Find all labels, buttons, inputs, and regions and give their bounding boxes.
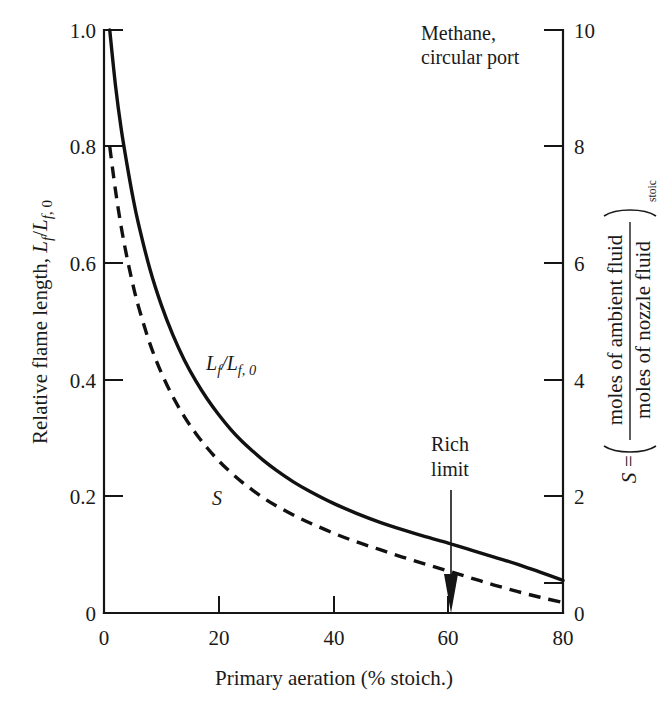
left-tick-label-2: 0.4 [70, 369, 97, 393]
series-line-stoichiometric-ratio [110, 147, 563, 603]
right-axis-title-symbol: S [617, 472, 641, 483]
right-axis-tick-labels: 10 8 6 4 2 0 [574, 19, 595, 626]
right-axis-ticks [544, 30, 563, 583]
methane-note: Methane, circular port [421, 22, 520, 69]
right-axis-title-paren-close [604, 210, 656, 216]
rich-limit-arrow-head [444, 574, 458, 613]
bottom-axis-title: Primary aeration (% stoich.) [215, 666, 453, 690]
left-axis-title: Relative flame length, Lf/Lf, 0 [28, 200, 55, 444]
left-tick-label-3: 0.6 [70, 252, 96, 276]
right-axis-title-group: S = moles of ambient fluid moles of nozz… [603, 180, 658, 483]
bottom-tick-label-60: 60 [438, 626, 459, 650]
right-tick-label-8: 8 [574, 135, 585, 159]
left-axis-title-group: Relative flame length, Lf/Lf, 0 [28, 200, 55, 444]
methane-note-line1: Methane, [421, 22, 496, 44]
right-tick-label-0: 0 [574, 602, 585, 626]
left-tick-label-4: 0.8 [70, 135, 96, 159]
right-tick-label-6: 6 [574, 252, 585, 276]
series-line-relative-flame-length [110, 30, 563, 580]
curve-label-lf-ratio: Lf/Lf, 0 [205, 352, 257, 378]
left-axis-ticks [104, 30, 123, 496]
right-axis-title-denominator: moles of nozzle fluid [631, 241, 655, 419]
right-tick-label-2: 2 [574, 485, 585, 509]
data-curves [110, 30, 563, 603]
left-tick-label-1: 0.2 [70, 485, 96, 509]
right-tick-label-4: 4 [574, 369, 585, 393]
bottom-tick-label-40: 40 [324, 626, 345, 650]
chart-canvas: 1.0 0.8 0.6 0.4 0.2 0 0 20 40 60 80 [0, 0, 667, 703]
right-axis-title-numerator: moles of ambient fluid [603, 234, 627, 425]
bottom-axis-title-group: Primary aeration (% stoich.) [215, 666, 453, 690]
bottom-tick-label-0: 0 [99, 626, 110, 650]
curve-label-s: S [212, 487, 222, 509]
bottom-tick-label-20: 20 [209, 626, 230, 650]
right-axis-title-subscript: stoic [646, 180, 658, 202]
bottom-axis-tick-labels: 0 20 40 60 80 [99, 626, 574, 650]
right-axis-title-equals: = [617, 455, 641, 467]
bottom-axis-ticks [219, 596, 448, 613]
rich-limit-label-line1: Rich [431, 433, 469, 455]
flame-length-chart-figure: 1.0 0.8 0.6 0.4 0.2 0 0 20 40 60 80 [0, 0, 667, 703]
left-axis-tick-labels: 1.0 0.8 0.6 0.4 0.2 0 [70, 19, 97, 626]
right-tick-label-10: 10 [574, 19, 595, 43]
left-tick-label-5: 1.0 [70, 19, 96, 43]
right-axis-title-paren-open [604, 446, 656, 452]
methane-note-line2: circular port [421, 46, 520, 69]
rich-limit-label-line2: limit [431, 458, 469, 480]
rich-limit-annotation: Rich limit [431, 433, 469, 613]
axes-group [104, 30, 563, 613]
left-tick-label-0: 0 [86, 602, 97, 626]
bottom-tick-label-80: 80 [553, 626, 574, 650]
